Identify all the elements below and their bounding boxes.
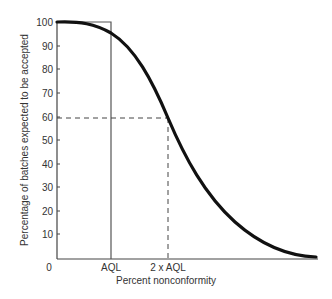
ideal-oc-box	[57, 22, 111, 259]
y-tick-labels: 100 90 80 70 60 50 40 30 20 10	[36, 17, 53, 240]
y-tick-100: 100	[36, 17, 53, 28]
y-tick-60: 60	[42, 112, 54, 123]
y-tick-50: 50	[42, 135, 54, 146]
y-tick-70: 70	[42, 88, 54, 99]
y-tick-30: 30	[42, 182, 54, 193]
x-axis-label: Percent nonconformity	[116, 275, 216, 286]
x-tick-aql: AQL	[101, 262, 121, 273]
y-tick-40: 40	[42, 159, 54, 170]
x-tick-origin: 0	[46, 262, 52, 273]
y-tick-10: 10	[42, 229, 54, 240]
y-axis-label: Percentage of batches expected to be acc…	[19, 34, 30, 246]
oc-chart: 100 90 80 70 60 50 40 30 20 10 0 AQL 2 x…	[0, 0, 332, 299]
x-tick-2aql: 2 x AQL	[150, 262, 186, 273]
y-tick-80: 80	[42, 64, 54, 75]
oc-curve	[57, 22, 316, 257]
y-tick-90: 90	[42, 41, 54, 52]
y-tick-20: 20	[42, 206, 54, 217]
